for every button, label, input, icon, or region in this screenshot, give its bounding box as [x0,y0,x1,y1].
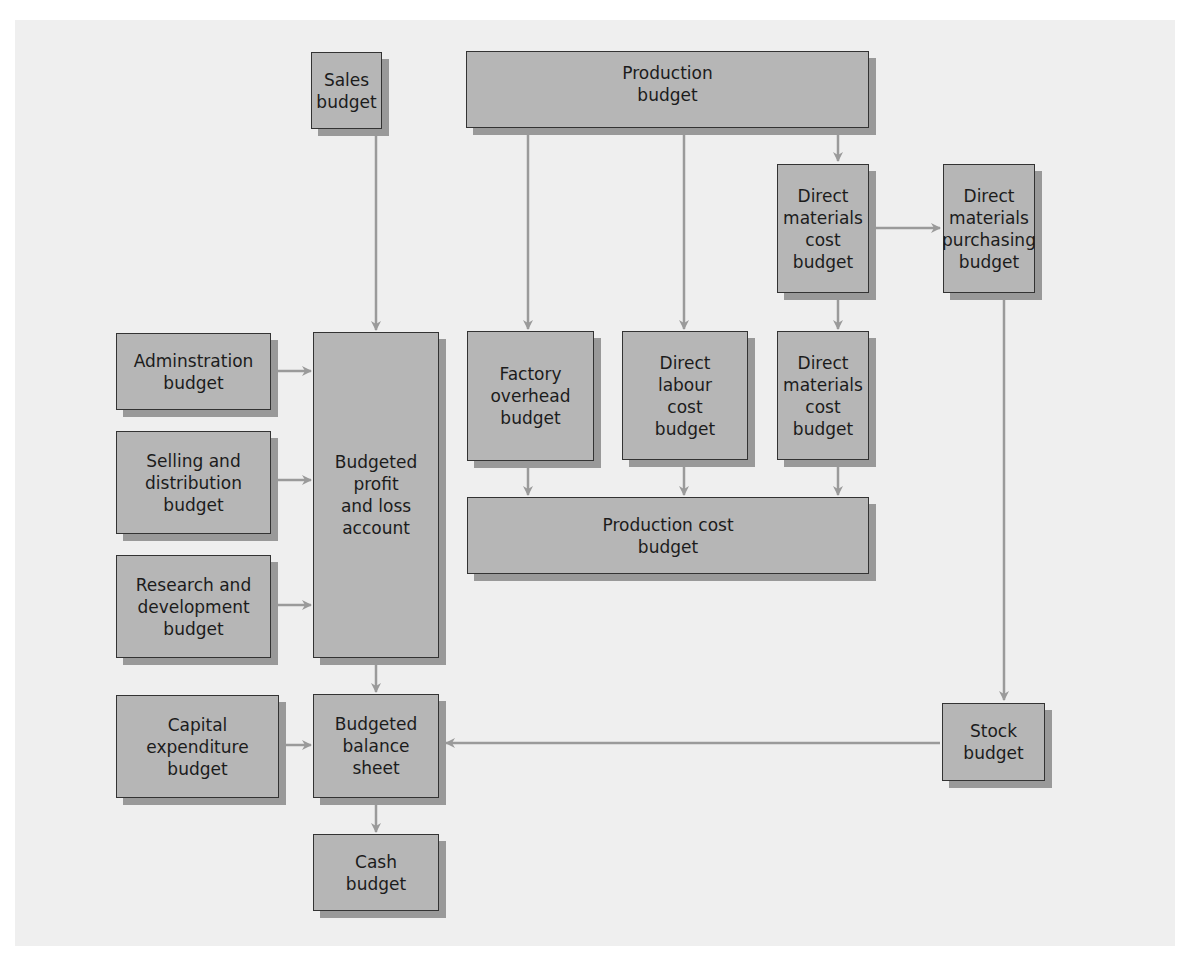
node-label: Selling and distribution budget [145,450,242,516]
node-capital-expenditure-budget: Capital expenditure budget [116,695,279,798]
node-label: Direct labour cost budget [655,352,715,440]
node-label: Cash budget [346,851,406,895]
node-label: Direct materials cost budget [783,352,863,440]
node-label: Production budget [565,62,771,106]
node-label: Adminstration budget [134,350,254,394]
node-production-cost-budget: Production cost budget [467,497,869,574]
node-direct-labour-cost-budget: Direct labour cost budget [622,331,748,460]
node-label: Budgeted balance sheet [335,713,417,779]
node-direct-materials-cost-budget-mid: Direct materials cost budget [777,331,869,460]
node-administration-budget: Adminstration budget [116,333,271,410]
node-sales-budget: Sales budget [311,52,382,129]
node-direct-materials-purchasing-budget: Direct materials purchasing budget [943,164,1035,293]
node-selling-distribution-budget: Selling and distribution budget [116,431,271,534]
node-stock-budget: Stock budget [942,703,1045,781]
node-label: Stock budget [963,720,1023,764]
node-research-development-budget: Research and development budget [116,555,271,658]
node-cash-budget: Cash budget [313,834,439,911]
node-label: Direct materials purchasing budget [942,185,1036,273]
node-label: Sales budget [316,69,376,113]
node-label: Capital expenditure budget [146,714,248,780]
node-label: Direct materials cost budget [783,185,863,273]
node-budgeted-profit-loss-account: Budgeted profit and loss account [313,332,439,658]
node-label: Research and development budget [136,574,251,640]
node-production-budget: Production budget [466,51,869,128]
node-budgeted-balance-sheet: Budgeted balance sheet [313,694,439,798]
node-factory-overhead-budget: Factory overhead budget [467,331,594,461]
node-label: Budgeted profit and loss account [335,451,417,539]
node-label: Factory overhead budget [490,363,570,429]
node-direct-materials-cost-budget-top: Direct materials cost budget [777,164,869,293]
node-label: Production cost budget [602,514,733,558]
